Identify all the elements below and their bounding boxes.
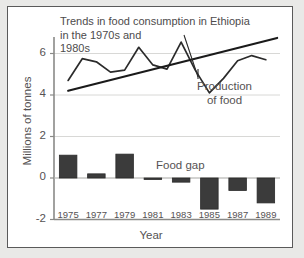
x-axis-tick: 1989 (252, 209, 280, 220)
x-axis-tick: 1975 (54, 209, 82, 220)
y-axis-tick: -2 (24, 212, 46, 224)
bar (88, 174, 106, 178)
x-axis-tick: 1979 (111, 209, 139, 220)
x-axis-tick: 1987 (224, 209, 252, 220)
y-axis-tick: 6 (24, 46, 46, 58)
y-axis-tick: 2 (24, 129, 46, 141)
x-axis-tick: 1985 (195, 209, 223, 220)
annotation-food-gap: Food gap (156, 159, 205, 171)
bar (257, 178, 275, 203)
bar (116, 154, 134, 178)
x-axis-tick: 1981 (139, 209, 167, 220)
axis-lines (50, 37, 280, 220)
y-axis-tick: 0 (24, 170, 46, 182)
bar (59, 155, 77, 178)
x-axis-label: Year (8, 229, 294, 241)
annotation-production-of-food: Production of food (197, 79, 252, 107)
bar (229, 178, 247, 190)
y-axis-tick: 4 (24, 87, 46, 99)
bar (172, 178, 190, 182)
bar (201, 178, 219, 209)
x-axis-tick: 1977 (82, 209, 110, 220)
y-axis-label: Millions of tonnes (21, 66, 33, 176)
chart-title: Trends in food consumption in Ethiopia i… (60, 15, 250, 56)
x-axis-tick: 1983 (167, 209, 195, 220)
chart-frame: Trends in food consumption in Ethiopia i… (7, 6, 293, 248)
bar (144, 178, 162, 180)
